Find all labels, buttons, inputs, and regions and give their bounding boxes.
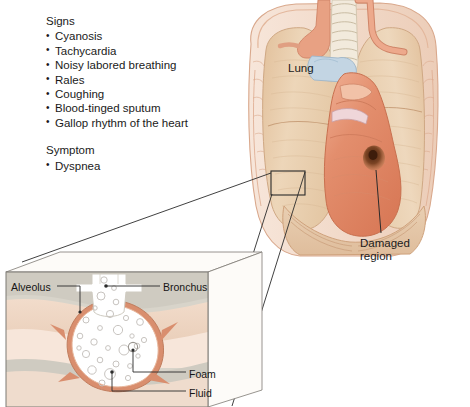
symptom-list: Dyspnea [46,159,196,173]
alveolus-label: Alveolus [11,281,51,293]
sign-item: Gallop rhythm of the heart [46,116,196,130]
symptom-item: Dyspnea [46,159,196,173]
damaged-region-label-line1: Damaged [360,237,430,250]
damaged-region-label-line2: region [360,250,430,263]
bronchus-label: Bronchus [163,281,207,293]
sign-item: Coughing [46,87,196,101]
signs-list: Cyanosis Tachycardia Noisy labored breat… [46,29,196,130]
sign-item: Rales [46,73,196,87]
fluid-label: Fluid [189,387,212,399]
symptom-heading: Symptom [46,143,196,157]
section-spacer [46,130,196,143]
sign-item: Tachycardia [46,44,196,58]
signs-and-symptoms-panel: Signs Cyanosis Tachycardia Noisy labored… [46,14,196,173]
signs-heading: Signs [46,14,196,28]
sign-item: Noisy labored breathing [46,58,196,72]
illustration-canvas: Signs Cyanosis Tachycardia Noisy labored… [0,0,470,407]
damaged-region-label: Damaged region [360,237,430,263]
foam-label: Foam [189,368,216,380]
lung-label: Lung [288,62,314,75]
sign-item: Cyanosis [46,29,196,43]
sign-item: Blood-tinged sputum [46,101,196,115]
